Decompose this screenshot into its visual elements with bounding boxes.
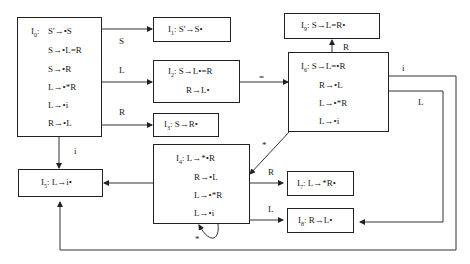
edge-label-star-loop: *: [195, 234, 200, 244]
item: S→L=•R: [312, 61, 346, 71]
item: L→•i: [48, 100, 68, 110]
item: R→•L: [48, 118, 72, 128]
state-I3: I3: S→R•: [153, 113, 219, 137]
item: S→•R: [48, 64, 71, 74]
state-I5: I5: L→i•: [18, 169, 103, 197]
sep: :: [174, 66, 177, 76]
item: L→i•: [52, 177, 72, 187]
item: R→•L: [194, 172, 218, 182]
item: L→*R•: [308, 178, 336, 188]
edge-label-i-I6: i: [402, 63, 405, 73]
sep: :: [182, 153, 185, 163]
item: L→*•R: [187, 153, 215, 163]
item: L→•i: [319, 116, 339, 126]
edge-label-star: *: [262, 140, 267, 150]
item: S→L=R•: [312, 20, 346, 30]
edge-label-L: L: [119, 65, 125, 75]
sep: :: [307, 61, 310, 71]
state-I4: I4: L→*•R R→•L L→•*R L→•i: [153, 144, 250, 224]
edge-label-S: S: [119, 36, 124, 46]
item: R→L•: [186, 85, 210, 95]
item: S'→•S: [48, 26, 72, 36]
item: S→•L=R: [48, 45, 82, 55]
edge-label-R: R: [119, 107, 125, 117]
item: S→R•: [175, 119, 198, 129]
sep: :: [307, 20, 310, 30]
sep: :: [303, 178, 306, 188]
state-I1: I1: S'→S•: [153, 17, 231, 42]
item: S→L•=R: [179, 66, 213, 76]
item: L→•*R: [319, 98, 347, 108]
item: S'→S•: [179, 24, 203, 34]
edge-label-L-I8: L: [268, 204, 274, 214]
state-I6: I6: S→L=•R R→•L L→•*R L→•i: [288, 52, 389, 132]
sep: :: [304, 215, 307, 225]
item: L→•i: [194, 208, 214, 218]
sep: :: [174, 24, 177, 34]
state-I2: I2: S→L•=R R→L•: [153, 60, 240, 103]
sep: :: [47, 177, 50, 187]
item: L→•*R: [48, 82, 76, 92]
item: R→L•: [309, 215, 333, 225]
item: L→•*R: [194, 190, 222, 200]
edge-label-i: i: [74, 146, 77, 156]
state-I8: I8: R→L•: [287, 208, 354, 233]
edge-label-R-I9: R: [343, 42, 349, 52]
edge-label-eq: =: [259, 72, 264, 82]
edge-label-R-I7: R: [268, 167, 274, 177]
state-I7: I7: L→*R•: [287, 171, 354, 196]
item: R→•L: [319, 80, 343, 90]
state-I0: I0: S'→•S S→•L=R S→•R L→•*R L→•i R→•L: [17, 17, 102, 137]
sep: :: [37, 26, 40, 36]
sep: :: [170, 119, 173, 129]
edge-label-L-I6: L: [418, 97, 424, 107]
state-I9: I9: S→L=R•: [284, 13, 380, 39]
